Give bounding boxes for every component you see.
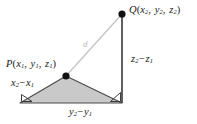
delta-z-label: z2−z1 <box>131 54 153 65</box>
point-p-term-x: x1 <box>16 58 24 69</box>
point-q-comma-1: , <box>148 4 152 15</box>
delta-x-left: x2 <box>11 77 19 88</box>
point-p-close-paren: ) <box>53 58 57 69</box>
point-q-close-paren: ) <box>177 4 181 15</box>
point-q-dot <box>118 10 125 17</box>
delta-x-label: x2−x1 <box>11 78 34 89</box>
point-q-label: Q(x2, y2, z2) <box>129 5 180 16</box>
point-q-comma-2: , <box>163 4 167 15</box>
point-q-letter: Q <box>129 4 137 15</box>
point-q-term-z: z2 <box>169 4 176 15</box>
base-triangle <box>20 76 122 103</box>
distance-formula-figure: Q(x2, y2, z2) P(x1, y1, z1) x2−x1 y2−y1 … <box>0 0 197 124</box>
point-p-term-y: y1 <box>31 58 39 69</box>
point-p-dot <box>62 72 69 79</box>
point-p-comma-1: , <box>24 58 28 69</box>
delta-y-right: y1 <box>84 106 92 117</box>
delta-y-left: y2 <box>69 106 77 117</box>
point-p-comma-2: , <box>39 58 43 69</box>
point-p-label: P(x1, y1, z1) <box>6 59 56 70</box>
delta-y-operator: − <box>77 106 84 117</box>
point-q-term-y: y2 <box>155 4 163 15</box>
point-p-term-z: z1 <box>45 58 52 69</box>
delta-x-operator: − <box>19 77 26 88</box>
distance-label: d <box>83 40 88 49</box>
hypotenuse-line <box>66 14 122 76</box>
delta-x-right: x1 <box>26 77 34 88</box>
delta-y-label: y2−y1 <box>69 107 92 118</box>
delta-z-right: z1 <box>145 53 152 64</box>
